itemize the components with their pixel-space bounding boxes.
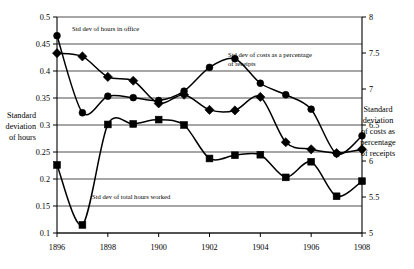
left-tick-label: 0.45 bbox=[36, 40, 50, 49]
line-chart: 0.10.150.20.250.30.350.40.450.5 55.566.5… bbox=[0, 0, 414, 269]
series-annotation: Std dev of costs as a percentage bbox=[228, 51, 312, 58]
data-point-diamond bbox=[205, 105, 214, 114]
right-tick-label: 6 bbox=[369, 157, 373, 166]
series-circle bbox=[54, 32, 366, 157]
left-tick-label: 0.2 bbox=[40, 175, 50, 184]
right-tick-label: 7.5 bbox=[369, 49, 379, 58]
data-point-square bbox=[308, 158, 315, 165]
data-point-square bbox=[282, 174, 289, 181]
right-tick-label: 5 bbox=[369, 229, 373, 238]
x-tick-label: 1900 bbox=[150, 243, 166, 252]
left-axis-title-line3: of hours bbox=[9, 133, 36, 142]
annotation-group: Std dev of hours in officeStd dev of cos… bbox=[72, 25, 312, 200]
left-tick-label: 0.5 bbox=[40, 13, 50, 22]
series-line bbox=[57, 118, 362, 226]
data-point-circle bbox=[308, 106, 315, 113]
series-annotation: Std dev of total hours worked bbox=[92, 193, 171, 200]
right-axis-ticks: 55.566.577.58 bbox=[362, 13, 379, 238]
data-point-circle bbox=[181, 88, 188, 95]
right-axis-title-line3: of costs as bbox=[361, 127, 395, 136]
data-point-square bbox=[54, 162, 61, 169]
data-point-square bbox=[155, 116, 162, 123]
left-axis-title: Standard deviation of hours bbox=[6, 111, 36, 142]
data-point-diamond bbox=[78, 52, 87, 61]
data-point-square bbox=[359, 178, 366, 185]
right-axis-title-line5: of receipts bbox=[361, 149, 395, 158]
data-point-circle bbox=[206, 64, 213, 71]
data-point-circle bbox=[333, 150, 340, 157]
x-tick-label: 1908 bbox=[354, 243, 370, 252]
data-point-diamond bbox=[52, 49, 61, 58]
gridlines bbox=[57, 17, 362, 233]
right-tick-label: 8 bbox=[369, 13, 373, 22]
data-point-circle bbox=[104, 93, 111, 100]
data-point-square bbox=[104, 121, 111, 128]
data-point-circle bbox=[257, 80, 264, 87]
right-tick-label: 7 bbox=[369, 85, 373, 94]
series-annotation: Std dev of hours in office bbox=[72, 25, 139, 32]
right-axis-title-line2: deviation bbox=[363, 116, 393, 125]
x-tick-label: 1898 bbox=[100, 243, 116, 252]
series-annotation: of receipts bbox=[228, 60, 256, 67]
data-point-square bbox=[79, 222, 86, 229]
data-point-circle bbox=[79, 109, 86, 116]
chart-container: 0.10.150.20.250.30.350.40.450.5 55.566.5… bbox=[0, 0, 414, 269]
series-square bbox=[54, 116, 366, 228]
x-axis-ticks: 1896189819001902190419061908 bbox=[49, 233, 370, 252]
series-line bbox=[57, 36, 362, 155]
data-point-diamond bbox=[307, 145, 316, 154]
right-axis-title-line1: Standard bbox=[363, 105, 392, 114]
data-point-circle bbox=[155, 97, 162, 104]
left-axis-title-line1: Standard bbox=[7, 111, 36, 120]
right-tick-label: 5.5 bbox=[369, 193, 379, 202]
left-tick-label: 0.25 bbox=[36, 148, 50, 157]
left-axis-title-line2: deviation bbox=[6, 122, 36, 131]
data-point-square bbox=[206, 155, 213, 162]
left-tick-label: 0.4 bbox=[40, 67, 50, 76]
left-tick-label: 0.3 bbox=[40, 121, 50, 130]
x-tick-label: 1896 bbox=[49, 243, 65, 252]
right-axis-title-line4: percentage bbox=[360, 138, 396, 147]
left-tick-label: 0.1 bbox=[40, 229, 50, 238]
x-tick-label: 1902 bbox=[201, 243, 217, 252]
data-point-diamond bbox=[230, 106, 239, 115]
data-point-circle bbox=[130, 94, 137, 101]
data-point-circle bbox=[54, 32, 61, 39]
left-tick-label: 0.15 bbox=[36, 202, 50, 211]
left-tick-label: 0.35 bbox=[36, 94, 50, 103]
data-point-square bbox=[257, 151, 264, 158]
right-axis-title: Standard deviation of costs as percentag… bbox=[360, 105, 396, 158]
data-point-square bbox=[333, 193, 340, 200]
x-tick-label: 1904 bbox=[252, 243, 268, 252]
data-point-square bbox=[181, 122, 188, 129]
data-point-square bbox=[232, 152, 239, 159]
data-point-square bbox=[130, 121, 137, 128]
data-point-circle bbox=[282, 91, 289, 98]
data-point-diamond bbox=[103, 72, 112, 81]
left-axis-ticks: 0.10.150.20.250.30.350.40.450.5 bbox=[36, 13, 57, 238]
x-tick-label: 1906 bbox=[303, 243, 319, 252]
